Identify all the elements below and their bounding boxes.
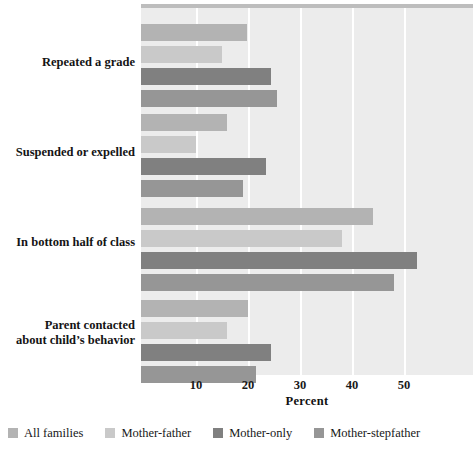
- x-tick-label-50: 50: [389, 378, 419, 393]
- gridline-20: [248, 8, 250, 375]
- category-label-line: about child’s behavior: [0, 333, 135, 348]
- bar: [141, 230, 342, 247]
- legend-swatch-icon: [105, 428, 115, 438]
- bar: [141, 136, 196, 153]
- category-label-line: Suspended or expelled: [16, 145, 135, 159]
- legend-swatch-icon: [8, 428, 18, 438]
- bar: [141, 252, 417, 269]
- legend-swatch-icon: [213, 428, 223, 438]
- bar: [141, 158, 266, 175]
- category-label-suspended-or-expelled: Suspended or expelled: [0, 145, 135, 160]
- category-label-repeated-a-grade: Repeated a grade: [0, 55, 135, 70]
- x-axis-title: Percent: [141, 394, 473, 409]
- plot-top-band: [141, 4, 473, 8]
- gridline-30: [300, 8, 302, 375]
- gridline-50: [404, 8, 406, 375]
- bar: [141, 24, 247, 41]
- x-tick-label-20: 20: [233, 378, 263, 393]
- bar: [141, 114, 227, 131]
- category-label-parent-contacted: Parent contacted about child’s behavior: [0, 318, 135, 347]
- bar: [141, 180, 243, 197]
- bar: [141, 322, 227, 339]
- bar-chart: Repeated a grade Suspended or expelled I…: [0, 0, 473, 454]
- category-label-line: In bottom half of class: [16, 235, 135, 249]
- legend-item-mother-stepfather[interactable]: Mother-stepfather: [314, 426, 420, 441]
- category-axis-labels: Repeated a grade Suspended or expelled I…: [0, 0, 141, 375]
- x-tick-label-10: 10: [181, 378, 211, 393]
- bar: [141, 208, 373, 225]
- legend-item-all-families[interactable]: All families: [8, 426, 83, 441]
- bar: [141, 300, 248, 317]
- bar: [141, 90, 277, 107]
- legend-label: Mother-only: [229, 426, 292, 441]
- legend-label: Mother-father: [121, 426, 191, 441]
- legend: All familiesMother-fatherMother-onlyMoth…: [8, 423, 473, 443]
- legend-item-mother-only[interactable]: Mother-only: [213, 426, 292, 441]
- gridline-40: [352, 8, 354, 375]
- bar: [141, 68, 271, 85]
- x-tick-label-40: 40: [337, 378, 367, 393]
- legend-label: Mother-stepfather: [330, 426, 420, 441]
- category-label-line: Repeated a grade: [42, 55, 135, 69]
- x-tick-label-30: 30: [285, 378, 315, 393]
- legend-item-mother-father[interactable]: Mother-father: [105, 426, 191, 441]
- category-label-line: Parent contacted: [0, 318, 135, 333]
- plot-area: [141, 4, 473, 375]
- bar: [141, 274, 394, 291]
- bar: [141, 344, 271, 361]
- legend-swatch-icon: [314, 428, 324, 438]
- category-label-in-bottom-half-of-class: In bottom half of class: [0, 235, 135, 250]
- bar: [141, 46, 222, 63]
- legend-label: All families: [24, 426, 83, 441]
